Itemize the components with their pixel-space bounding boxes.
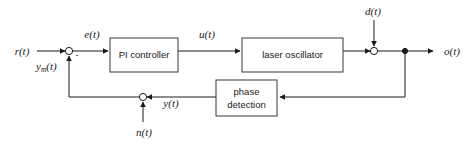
label-measured-feedback-signal: ym(t) bbox=[35, 60, 57, 74]
block-phase-detection-label-line1: phase bbox=[234, 86, 260, 97]
label-control-signal: u(t) bbox=[199, 28, 215, 41]
label-reference-signal: r(t) bbox=[15, 45, 30, 58]
label-disturbance-signal: d(t) bbox=[365, 5, 381, 18]
disturbance-summing-junction[interactable] bbox=[370, 47, 377, 54]
block-laser-oscillator-label: laser oscillator bbox=[262, 49, 323, 60]
error-summing-junction[interactable] bbox=[65, 47, 72, 54]
block-diagram-canvas: PI controller laser oscillator phase det… bbox=[0, 0, 471, 145]
block-pi-controller-label: PI controller bbox=[119, 49, 170, 60]
block-diagram-svg: PI controller laser oscillator phase det… bbox=[0, 0, 471, 145]
label-error-signal: e(t) bbox=[84, 28, 100, 41]
label-output-signal: o(t) bbox=[444, 45, 460, 58]
label-detected-signal: y(t) bbox=[162, 97, 179, 110]
label-noise-signal: n(t) bbox=[136, 126, 152, 139]
noise-summing-junction[interactable] bbox=[139, 93, 146, 100]
block-phase-detection-label-line2: detection bbox=[227, 99, 266, 110]
label-measured-feedback-tail: (t) bbox=[46, 60, 57, 73]
output-branch-node bbox=[402, 48, 407, 53]
label-negative-sign: - bbox=[76, 50, 79, 60]
